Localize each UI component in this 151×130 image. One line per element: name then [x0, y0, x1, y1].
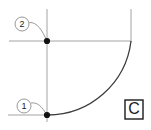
drawing-canvas: 2 1 C — [0, 0, 151, 130]
balloon-2-label: 2 — [19, 19, 24, 29]
callout-balloon-1[interactable]: 1 — [17, 99, 31, 113]
label-box-c[interactable]: C — [125, 100, 143, 119]
point-lower-node — [44, 112, 50, 118]
label-box-letter: C — [128, 100, 140, 117]
leader-line-balloon-2 — [29, 22, 47, 41]
balloon-1-label: 1 — [21, 101, 26, 111]
callout-balloon-2[interactable]: 2 — [15, 17, 29, 31]
cad-sketch-svg: 2 1 C — [0, 0, 151, 130]
quarter-arc-path — [47, 41, 131, 115]
point-upper-node — [44, 38, 50, 44]
